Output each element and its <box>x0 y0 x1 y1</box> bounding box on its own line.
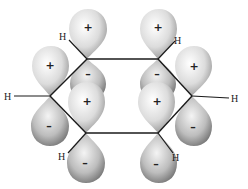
h-label-right: H <box>231 93 238 104</box>
plus-sign-left: + <box>45 59 54 72</box>
minus-sign-bottom-left: – <box>82 157 88 170</box>
h-label-bottom-right: H <box>172 152 179 163</box>
h-label-bottom-left: H <box>58 151 65 162</box>
h-label-top-left: H <box>59 31 66 42</box>
plus-sign-bottom-left: + <box>82 95 91 108</box>
lobe-positive <box>140 9 177 59</box>
benzene-orbital-diagram: H H H H H H + + + + + + – – – – – – <box>0 0 248 189</box>
plus-sign-bottom-right: + <box>152 95 161 108</box>
plus-sign-right: + <box>189 60 198 73</box>
plus-sign-top-left: + <box>83 21 92 34</box>
lobe-positive <box>69 9 107 59</box>
h-label-left: H <box>4 91 11 102</box>
minus-sign-right: – <box>190 121 196 134</box>
h-label-top-right: H <box>174 35 181 46</box>
bond-ch-right <box>192 96 229 98</box>
minus-sign-bottom-right: – <box>153 158 159 171</box>
minus-sign-left: – <box>46 120 52 133</box>
plus-sign-top-right: + <box>153 21 162 34</box>
minus-sign-top-left: – <box>85 68 91 81</box>
minus-sign-top-right: – <box>154 68 160 81</box>
